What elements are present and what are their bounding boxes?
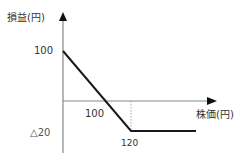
profit-loss-chart: 損益(円) 100 △20 100 120 株価(円)	[0, 0, 247, 160]
x-axis-label: 株価(円)	[196, 110, 234, 120]
y-axis-label: 損益(円)	[7, 13, 45, 23]
payoff-line	[63, 51, 196, 131]
x-tick-120: 120	[121, 139, 138, 148]
y-axis-arrow-icon	[59, 12, 67, 21]
x-tick-100: 100	[85, 109, 104, 119]
x-axis-arrow-icon	[207, 97, 217, 105]
y-tick-100: 100	[34, 46, 53, 56]
y-tick-minus20: △20	[30, 128, 50, 138]
